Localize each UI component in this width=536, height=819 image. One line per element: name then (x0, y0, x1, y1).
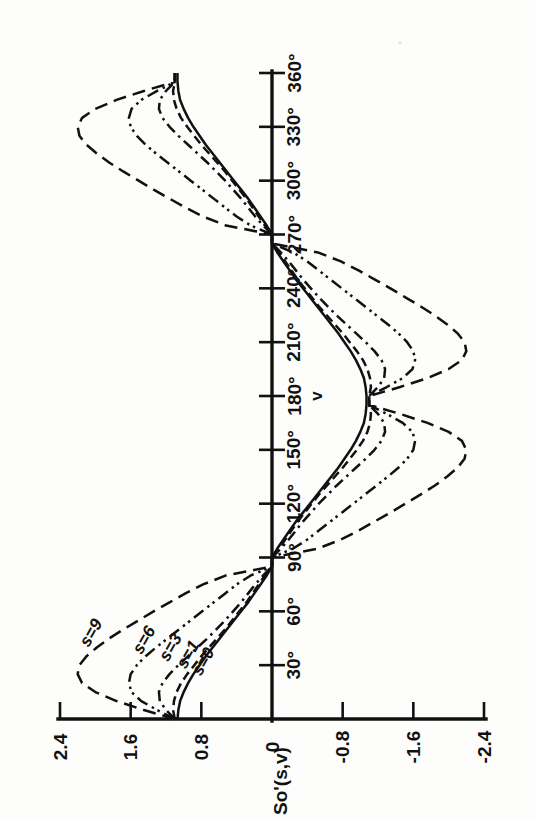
x-tick: 180° (259, 376, 305, 415)
x-tick-label: 180° (284, 376, 305, 415)
y-tick: 0.8 (191, 702, 212, 760)
x-tick-label: 330° (284, 107, 305, 146)
x-tick-label: 150° (284, 430, 305, 469)
x-tick: 240° (259, 269, 305, 308)
y-tick: -2.4 (474, 702, 495, 763)
scan-speck (398, 41, 402, 44)
x-tick-label: 300° (284, 161, 305, 200)
x-tick: 60° (259, 597, 305, 626)
x-tick: 150° (259, 430, 305, 469)
x-tick: 210° (259, 323, 305, 362)
y-tick: -0.8 (332, 702, 353, 763)
x-tick-label: 360° (284, 53, 305, 92)
curve-label-s6: s=6 (128, 622, 159, 657)
x-tick: 300° (259, 161, 305, 200)
x-tick: 330° (259, 107, 305, 146)
y-tick-label: -0.8 (332, 731, 353, 764)
y-tick-label: 0.8 (191, 734, 212, 760)
x-tick-label: 210° (284, 323, 305, 362)
y-tick-label: 2.4 (50, 733, 71, 760)
x-tick-label: 30° (284, 651, 305, 680)
y-tick-label: -2.4 (474, 730, 495, 763)
y-tick-label: 1.6 (120, 734, 141, 760)
y-tick: 2.4 (50, 702, 71, 760)
x-tick: 90° (259, 543, 305, 572)
chart-plot-area: 30°60°90°120°150°180°210°240°270°300°330… (0, 0, 536, 819)
y-tick: -1.6 (403, 702, 424, 763)
y-axis-label: So'(s,v) (270, 747, 291, 815)
y-tick-label: -1.6 (403, 731, 424, 764)
y-tick: 1.6 (120, 702, 141, 760)
figure-canvas: 30°60°90°120°150°180°210°240°270°300°330… (0, 0, 536, 819)
x-tick-label: 60° (284, 597, 305, 626)
scan-speck (286, 309, 289, 311)
x-tick: 30° (259, 651, 305, 680)
x-tick: 360° (259, 53, 305, 92)
x-axis-label: v (307, 391, 326, 401)
